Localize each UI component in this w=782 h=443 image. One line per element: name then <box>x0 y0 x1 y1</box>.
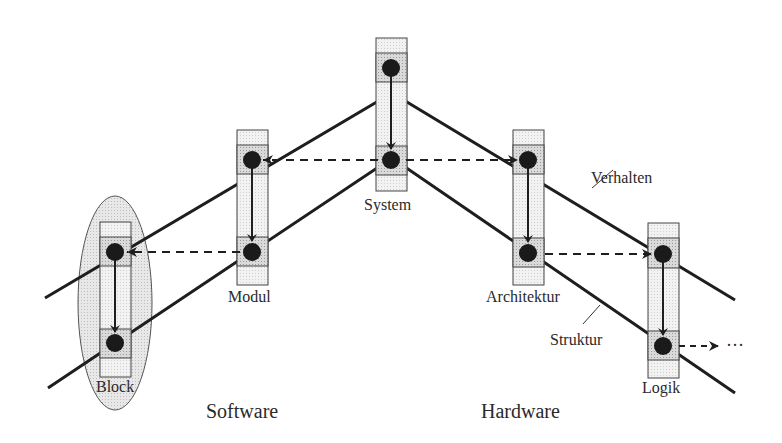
block-behavior-node <box>106 243 124 261</box>
block-structure-node <box>106 334 124 352</box>
label-verhalten: Verhalten <box>591 169 652 186</box>
level-system <box>376 38 407 191</box>
struktur-leader <box>583 305 600 324</box>
system-structure-node <box>382 151 400 169</box>
level-architektur <box>513 130 544 285</box>
logik-behavior-node <box>654 245 672 263</box>
diagram-canvas: ··· Block Modul System Architektur Logik… <box>0 0 782 443</box>
modul-structure-node <box>243 243 261 261</box>
label-block: Block <box>96 378 134 395</box>
continuation-dots: ··· <box>726 335 744 355</box>
architektur-structure-node <box>519 244 537 262</box>
level-logik <box>648 223 679 378</box>
architektur-behavior-node <box>519 151 537 169</box>
label-system: System <box>364 196 412 214</box>
label-modul: Modul <box>228 288 271 305</box>
label-software: Software <box>206 400 278 422</box>
logik-structure-node <box>654 337 672 355</box>
modul-behavior-node <box>243 151 261 169</box>
label-logik: Logik <box>642 379 680 397</box>
label-struktur: Struktur <box>550 331 603 348</box>
level-block <box>100 222 131 377</box>
level-modul <box>237 130 268 285</box>
label-hardware: Hardware <box>481 400 560 422</box>
label-architektur: Architektur <box>486 288 560 305</box>
system-behavior-node <box>382 59 400 77</box>
